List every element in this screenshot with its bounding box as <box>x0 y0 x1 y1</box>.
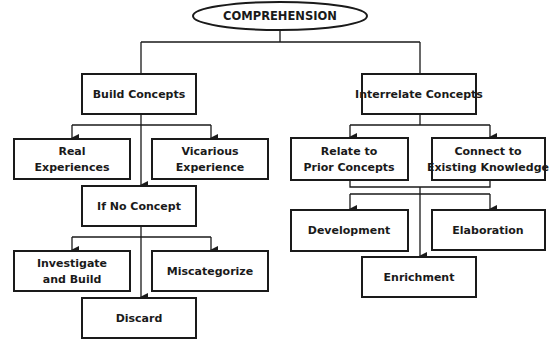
vicarious-experience-label-line1: Vicarious <box>181 145 239 158</box>
development-label: Development <box>308 224 390 237</box>
interrelate-concepts-label: Interrelate Concepts <box>355 88 483 101</box>
comprehension-diagram: COMPREHENSION Build Concepts Interrelate… <box>0 0 557 348</box>
real-experiences-label-line1: Real <box>58 145 85 158</box>
real-experiences-label-line2: Experiences <box>35 161 110 174</box>
real-experiences-node: Real Experiences <box>14 139 130 179</box>
connector-interrelate <box>350 114 490 125</box>
miscategorize-label: Miscategorize <box>167 265 253 278</box>
connect-existing-node: Connect to Existing Knowledge <box>427 138 549 180</box>
connect-existing-label-line2: Existing Knowledge <box>427 161 549 174</box>
enrichment-label: Enrichment <box>384 271 455 284</box>
connect-existing-label-line1: Connect to <box>454 145 522 158</box>
relate-prior-node: Relate to Prior Concepts <box>291 138 408 180</box>
development-node: Development <box>291 210 408 251</box>
vicarious-experience-node: Vicarious Experience <box>152 139 268 179</box>
interrelate-concepts-node: Interrelate Concepts <box>355 74 483 114</box>
comprehension-node: COMPREHENSION <box>193 2 367 30</box>
investigate-and-build-label-line1: Investigate <box>37 257 107 270</box>
connector-root <box>141 30 420 74</box>
comprehension-label: COMPREHENSION <box>223 9 337 23</box>
elaboration-node: Elaboration <box>432 210 545 250</box>
relate-prior-label-line2: Prior Concepts <box>303 161 395 174</box>
elaboration-label: Elaboration <box>452 224 523 237</box>
relate-prior-label-line1: Relate to <box>321 145 378 158</box>
miscategorize-node: Miscategorize <box>152 251 268 291</box>
vicarious-experience-label-line2: Experience <box>176 161 244 174</box>
investigate-and-build-node: Investigate and Build <box>14 251 130 291</box>
discard-node: Discard <box>82 298 196 338</box>
if-no-concept-node: If No Concept <box>82 186 196 226</box>
investigate-and-build-label-line2: and Build <box>43 273 102 286</box>
discard-label: Discard <box>116 312 163 325</box>
build-concepts-label: Build Concepts <box>93 88 186 101</box>
enrichment-node: Enrichment <box>362 257 476 297</box>
connector-merge <box>350 180 490 194</box>
if-no-concept-label: If No Concept <box>97 200 181 213</box>
build-concepts-node: Build Concepts <box>82 74 196 114</box>
